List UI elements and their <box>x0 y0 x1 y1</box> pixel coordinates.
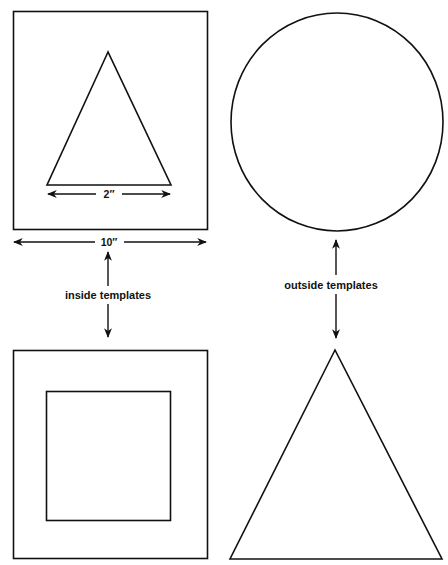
dimension-label-2in: 2″ <box>104 188 115 200</box>
outer-square-bottom <box>14 351 208 559</box>
inner-square <box>47 392 171 521</box>
circle <box>231 13 443 231</box>
inside-templates-connector: inside templates <box>65 252 151 337</box>
large-triangle <box>230 350 442 559</box>
outside-template-circle <box>231 13 443 231</box>
outside-template-triangle <box>230 350 442 559</box>
template-diagram: 2″ 10″ inside templates outside template… <box>0 0 448 565</box>
dimension-label-10in: 10″ <box>101 236 118 248</box>
inside-template-square-square <box>14 351 208 559</box>
outside-templates-label: outside templates <box>284 279 378 291</box>
outside-templates-connector: outside templates <box>284 240 378 338</box>
dimension-2in: 2″ <box>48 188 170 200</box>
dimension-10in: 10″ <box>14 236 206 248</box>
inside-templates-label: inside templates <box>65 289 151 301</box>
inner-triangle <box>47 52 171 185</box>
